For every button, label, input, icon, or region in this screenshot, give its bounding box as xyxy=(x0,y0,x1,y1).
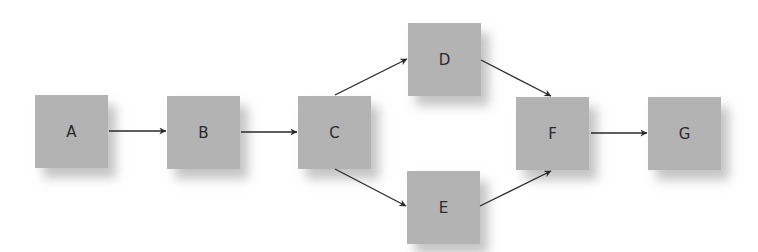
edge-c-d-arrow-icon xyxy=(335,59,407,95)
node-d-label: D xyxy=(439,51,451,69)
edges-layer xyxy=(0,0,758,252)
node-b: B xyxy=(167,96,240,169)
edge-d-f-arrow-icon xyxy=(481,60,551,96)
node-c-label: C xyxy=(329,124,339,142)
edge-e-f-arrow-icon xyxy=(480,171,551,206)
node-d: D xyxy=(408,23,481,96)
node-g-label: G xyxy=(679,125,691,143)
node-f-label: F xyxy=(548,125,557,143)
node-b-label: B xyxy=(198,124,208,142)
node-c: C xyxy=(298,96,371,169)
node-e: E xyxy=(407,171,480,244)
node-f: F xyxy=(516,97,589,170)
edge-c-e-arrow-icon xyxy=(335,169,406,206)
node-a: A xyxy=(35,95,108,168)
node-g: G xyxy=(648,97,721,170)
node-a-label: A xyxy=(66,123,76,141)
node-e-label: E xyxy=(439,199,448,217)
flow-diagram: A B C D E F G xyxy=(0,0,758,252)
